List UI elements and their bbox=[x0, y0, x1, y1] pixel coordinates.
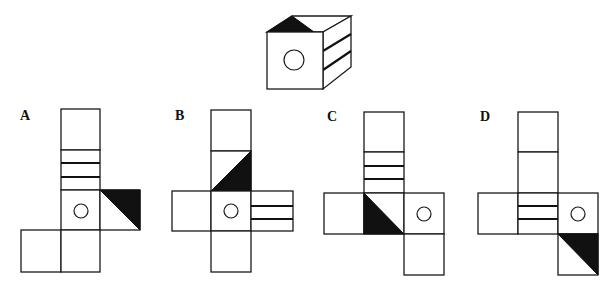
option-c[interactable]: C bbox=[324, 109, 444, 275]
net-face bbox=[61, 150, 100, 190]
net-face bbox=[558, 193, 598, 234]
option-label: D bbox=[480, 109, 490, 124]
net-face bbox=[324, 193, 364, 234]
net-face bbox=[61, 230, 100, 272]
net-face bbox=[364, 112, 404, 152]
net-face bbox=[61, 190, 100, 230]
cube-front-face bbox=[267, 32, 323, 89]
net-face bbox=[518, 152, 558, 193]
net-face bbox=[404, 234, 444, 275]
net-face bbox=[478, 193, 518, 234]
option-a[interactable]: A bbox=[20, 108, 140, 272]
net-face bbox=[364, 152, 404, 193]
option-d[interactable]: D bbox=[478, 109, 598, 275]
net-face bbox=[21, 230, 61, 272]
net-face bbox=[404, 193, 444, 234]
net-face bbox=[211, 191, 251, 231]
option-label: A bbox=[20, 108, 31, 123]
net-face bbox=[251, 191, 293, 231]
net-face bbox=[172, 191, 211, 231]
net-face bbox=[518, 112, 558, 152]
net-face bbox=[518, 193, 558, 234]
net-face bbox=[211, 110, 251, 151]
option-label: B bbox=[175, 108, 184, 123]
puzzle-figure: A B C D bbox=[0, 0, 613, 296]
net-face bbox=[61, 109, 100, 150]
option-label: C bbox=[327, 109, 337, 124]
reference-cube bbox=[267, 16, 351, 89]
option-b[interactable]: B bbox=[172, 108, 293, 272]
net-face bbox=[211, 231, 251, 272]
